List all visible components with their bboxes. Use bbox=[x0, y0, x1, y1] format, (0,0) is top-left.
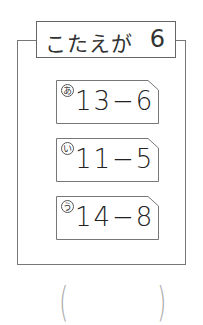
answer-header-value: 6 bbox=[150, 25, 165, 53]
expression-card-i[interactable]: い 11−5 bbox=[56, 138, 159, 182]
card-expression: 13−6 bbox=[75, 86, 154, 116]
answer-paren-open: ( bbox=[59, 282, 68, 322]
card-expression: 14−8 bbox=[75, 202, 154, 232]
card-expression: 11−5 bbox=[75, 144, 154, 174]
answer-header-label: こたえが bbox=[45, 27, 133, 57]
card-mark: あ bbox=[61, 84, 74, 97]
expression-card-u[interactable]: う 14−8 bbox=[56, 196, 159, 240]
answer-blank[interactable] bbox=[70, 285, 150, 321]
answer-header: こたえが 6 bbox=[36, 21, 176, 58]
card-mark: い bbox=[61, 142, 74, 155]
card-mark: う bbox=[61, 200, 74, 213]
expression-card-a[interactable]: あ 13−6 bbox=[56, 80, 159, 124]
answer-paren-close: ) bbox=[157, 282, 166, 322]
